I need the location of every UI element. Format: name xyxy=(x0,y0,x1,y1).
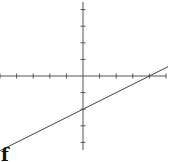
coordinate-plane xyxy=(0,0,170,162)
panel-label: f xyxy=(1,146,9,162)
axes xyxy=(0,2,166,150)
data-line xyxy=(0,67,168,151)
